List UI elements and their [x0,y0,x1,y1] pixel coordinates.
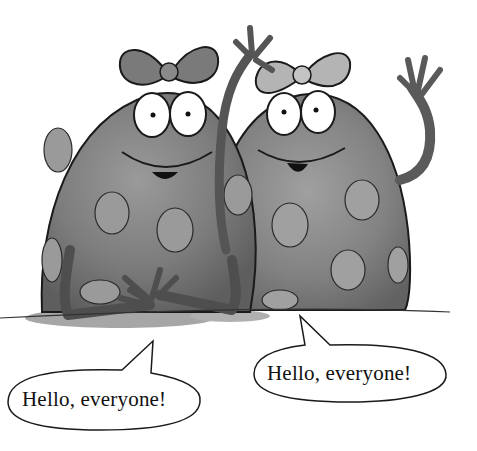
left-blob [42,28,272,315]
illustration-canvas: Hello, everyone! Hello, everyone! [0,0,477,451]
speech-bubble-right-text: Hello, everyone! [267,361,411,386]
speech-bubble-right [254,316,446,402]
speech-bubble-left-text: Hello, everyone! [22,387,166,412]
speech-bubble-left [8,341,200,430]
